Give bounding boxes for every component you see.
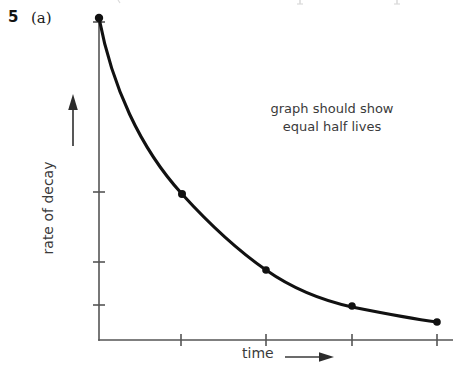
axes [99,18,453,340]
y-axis-arrow [68,94,78,146]
data-point [348,302,356,310]
data-point [433,318,441,326]
annotation-line-2: equal half lives [268,118,396,136]
annotation-line-1: graph should show [268,100,396,118]
decay-curve-group [99,18,437,322]
marker-annotation: graph should show equal half lives [268,100,396,136]
y-axis-label: rate of decay [40,148,56,268]
data-point [178,190,186,198]
x-axis-arrow [285,352,334,361]
data-point [262,266,270,274]
data-points [95,14,441,326]
decay-curve [99,18,437,322]
x-axis-label: time [242,345,274,361]
figure-container: 5 (a) [0,0,453,366]
data-point [95,14,103,22]
decay-graph [0,0,453,366]
top-crop-artifacts [118,0,400,4]
